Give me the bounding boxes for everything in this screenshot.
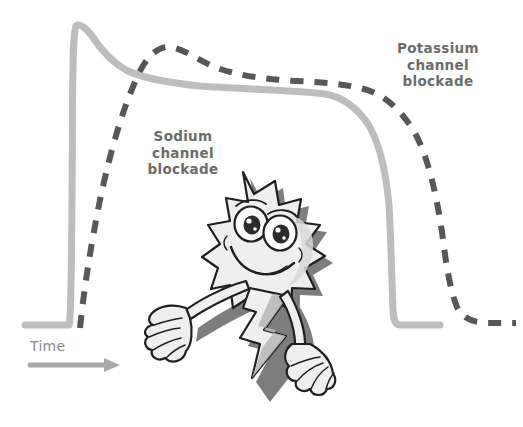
lightning-bolt-mascot: [145, 172, 335, 402]
potassium-label-line-3: blockade: [363, 73, 513, 90]
sodium-channel-blockade-label: Sodium channel blockade: [118, 128, 248, 178]
mascot-left-hand: [145, 306, 192, 362]
potassium-label-line-2: channel: [363, 57, 513, 74]
potassium-label-line-1: Potassium: [363, 40, 513, 57]
sodium-label-line-1: Sodium: [118, 128, 248, 145]
sodium-label-line-3: blockade: [118, 161, 248, 178]
sodium-label-line-2: channel: [118, 145, 248, 162]
mascot-right-hand: [285, 344, 335, 395]
potassium-channel-blockade-label: Potassium channel blockade: [363, 40, 513, 90]
action-potential-figure: Potassium channel blockade Sodium channe…: [0, 0, 523, 427]
time-axis-label: Time: [30, 338, 90, 355]
